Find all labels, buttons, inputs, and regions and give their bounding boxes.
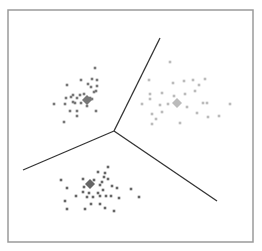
data-point	[130, 188, 133, 191]
data-point	[91, 78, 94, 81]
data-point	[116, 187, 119, 190]
data-point	[96, 79, 99, 82]
cluster-boundaries	[23, 38, 217, 201]
data-point	[207, 116, 210, 119]
data-point	[60, 179, 63, 182]
data-point	[173, 95, 176, 98]
data-point	[184, 93, 187, 96]
plot-frame	[8, 10, 253, 242]
data-point	[141, 103, 144, 106]
data-point	[196, 112, 199, 115]
data-point	[66, 84, 69, 87]
data-point	[155, 118, 158, 121]
data-point	[76, 97, 79, 100]
data-point	[138, 196, 141, 199]
data-point	[151, 123, 154, 126]
data-point	[75, 195, 78, 198]
data-point	[159, 104, 162, 107]
data-point	[99, 195, 102, 198]
data-point	[167, 103, 170, 106]
data-point	[161, 111, 164, 114]
data-point	[83, 186, 86, 189]
cluster-1-points	[53, 67, 99, 124]
data-point	[151, 113, 154, 116]
boundary-line-3	[114, 131, 217, 201]
data-point	[204, 78, 207, 81]
cluster-2-centroid-diamond-icon	[172, 98, 182, 108]
data-point	[65, 97, 68, 100]
data-point	[96, 85, 99, 88]
cluster-3-points	[60, 166, 141, 213]
data-point	[83, 93, 86, 96]
data-point	[88, 192, 91, 195]
data-point	[105, 195, 108, 198]
cluster-centroids	[82, 95, 182, 189]
data-point	[69, 110, 72, 113]
cluster-scatter-chart	[0, 0, 262, 251]
data-point	[104, 172, 107, 175]
data-point	[95, 110, 98, 113]
data-point	[84, 208, 87, 211]
data-point	[76, 115, 79, 118]
data-point	[80, 79, 83, 82]
data-point	[79, 94, 82, 97]
data-point	[103, 176, 106, 179]
data-point	[53, 103, 56, 106]
data-point	[111, 185, 114, 188]
data-point	[113, 210, 116, 213]
data-point	[172, 82, 175, 85]
data-point	[107, 178, 110, 181]
data-point	[148, 79, 151, 82]
data-point	[101, 181, 104, 184]
data-point	[107, 166, 110, 169]
data-point	[192, 79, 195, 82]
data-point	[64, 103, 67, 106]
data-point	[97, 192, 100, 195]
data-point	[82, 178, 85, 181]
data-point	[87, 83, 90, 86]
data-point	[202, 102, 205, 105]
data-point	[66, 208, 69, 211]
data-point	[93, 179, 96, 182]
data-point	[86, 105, 89, 108]
data-point	[80, 102, 83, 105]
data-point	[179, 122, 182, 125]
data-point	[149, 98, 152, 101]
data-point	[70, 96, 73, 99]
data-point	[206, 102, 209, 105]
data-point	[94, 67, 97, 70]
data-point	[82, 191, 85, 194]
data-point	[97, 171, 100, 174]
data-point	[118, 197, 121, 200]
data-point	[198, 84, 201, 87]
data-point	[99, 184, 102, 187]
data-point	[169, 61, 172, 64]
data-point	[229, 103, 232, 106]
data-point	[218, 115, 221, 118]
data-point	[149, 93, 152, 96]
cluster-1-centroid-diamond-icon	[82, 95, 92, 105]
data-point	[92, 196, 95, 199]
data-point	[64, 200, 67, 203]
data-point	[66, 187, 69, 190]
data-point	[183, 80, 186, 83]
data-point	[194, 90, 197, 93]
data-point	[161, 92, 164, 95]
boundary-line-2	[23, 131, 114, 170]
data-point	[86, 196, 89, 199]
data-point	[186, 106, 189, 109]
data-point	[104, 207, 107, 210]
data-point	[90, 203, 93, 206]
cluster-2-points	[141, 61, 232, 126]
boundary-line-1	[114, 38, 160, 131]
data-point	[63, 121, 66, 124]
data-point	[110, 195, 113, 198]
data-point	[90, 86, 93, 89]
data-point	[93, 91, 96, 94]
data-point	[102, 189, 105, 192]
data-point	[99, 203, 102, 206]
data-point	[76, 110, 79, 113]
data-point	[72, 101, 75, 104]
data-points	[53, 61, 232, 213]
